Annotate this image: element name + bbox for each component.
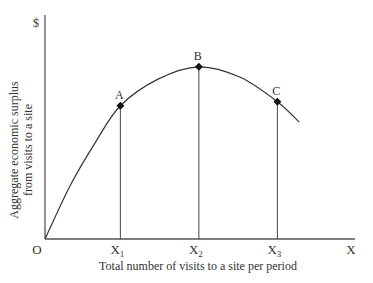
surplus-curve: [45, 67, 299, 239]
x-tick-label: X2: [189, 242, 203, 259]
x-tick-labels: X1X2X3: [110, 242, 281, 259]
y-axis-dollar-label: $: [33, 16, 39, 30]
drop-lines: [120, 67, 277, 239]
point-label-c: C: [272, 84, 280, 98]
surplus-chart: $ O X Aggregate economic surplus from vi…: [0, 0, 373, 283]
origin-label: O: [32, 242, 41, 257]
point-label-b: B: [194, 49, 202, 63]
x-tick-label: X3: [267, 242, 281, 259]
marked-points: ABC: [115, 49, 281, 110]
point-label-a: A: [115, 88, 124, 102]
x-axis-end-label: X: [346, 242, 356, 257]
point-b: [195, 63, 203, 71]
y-axis-title-line-2: from visits to a site: [21, 104, 35, 196]
y-axis-title-line-1: Aggregate economic surplus: [7, 81, 21, 219]
x-axis-title: Total number of visits to a site per per…: [99, 259, 297, 273]
y-axis-title: Aggregate economic surplus from visits t…: [7, 81, 35, 219]
x-tick-label: X1: [110, 242, 124, 259]
